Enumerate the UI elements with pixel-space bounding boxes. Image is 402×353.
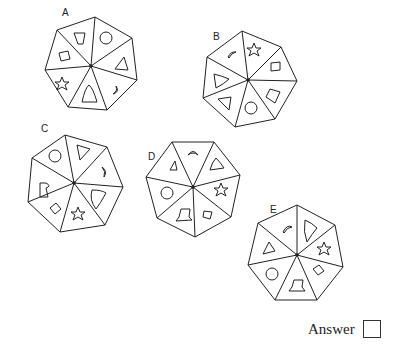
- heptagon-outline: [248, 205, 343, 300]
- segment-dividers: [203, 31, 297, 127]
- bell-arch-icon: [210, 158, 224, 170]
- crescent-icon: [102, 167, 106, 177]
- option-c[interactable]: C: [28, 123, 123, 232]
- option-b[interactable]: B: [203, 31, 297, 127]
- option-label-a: A: [62, 7, 69, 18]
- star-icon: [317, 242, 331, 255]
- answer-box[interactable]: [363, 320, 381, 338]
- crescent-icon: [188, 152, 198, 156]
- answer-row: Answer: [308, 320, 381, 338]
- puzzle-figure: A: [0, 0, 402, 353]
- triangle-icon: [77, 145, 90, 160]
- bell-arch-icon: [91, 190, 106, 209]
- trapezoid-icon: [74, 33, 85, 44]
- star-icon: [71, 207, 85, 220]
- option-e[interactable]: E: [248, 204, 343, 300]
- circle-icon: [100, 32, 112, 44]
- circle-icon: [49, 150, 61, 162]
- trapezoid-icon: [176, 209, 192, 221]
- trapezoid-icon: [266, 89, 280, 103]
- option-a[interactable]: A: [45, 7, 137, 110]
- square-icon: [271, 62, 280, 71]
- star-icon: [55, 77, 69, 90]
- triangle-icon: [115, 57, 128, 70]
- star-icon: [214, 183, 228, 196]
- square-icon: [313, 265, 324, 275]
- segment-dividers: [45, 17, 137, 110]
- square-icon: [203, 211, 212, 219]
- star-icon: [247, 43, 261, 56]
- crescent-icon: [283, 226, 292, 233]
- answer-label: Answer: [308, 321, 355, 338]
- bell-arch-icon: [82, 85, 97, 102]
- circle-icon: [266, 268, 278, 280]
- trapezoid-icon: [289, 280, 305, 291]
- triangle-icon: [218, 97, 231, 110]
- circle-icon: [161, 187, 173, 199]
- bell-arch-icon: [304, 220, 317, 242]
- crescent-icon: [113, 86, 117, 94]
- crescent-icon: [228, 52, 236, 58]
- triangle-icon: [170, 161, 177, 170]
- option-d[interactable]: D: [146, 142, 240, 237]
- square-icon: [59, 51, 70, 61]
- bell-arch-icon: [214, 74, 229, 88]
- heptagon-outline: [203, 31, 297, 127]
- option-label-e: E: [270, 204, 277, 215]
- circle-icon: [245, 102, 257, 114]
- option-label-d: D: [148, 151, 155, 162]
- option-label-c: C: [41, 123, 48, 134]
- triangle-icon: [263, 242, 275, 254]
- option-label-b: B: [213, 31, 220, 42]
- square-icon: [50, 203, 61, 214]
